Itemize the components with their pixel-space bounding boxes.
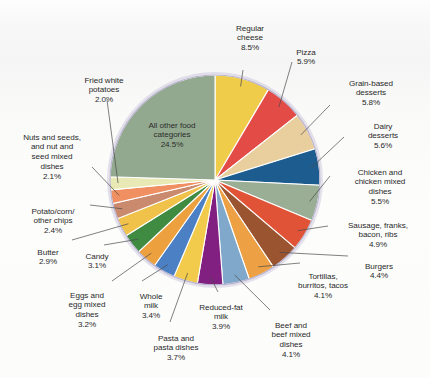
- callout-fried-white-potatoes: Fried white potatoes 2.0%: [68, 66, 140, 115]
- callout-label: Regular cheese: [236, 24, 264, 43]
- callout-label: Pizza: [296, 48, 316, 57]
- callout-pct: 2.1%: [13, 172, 91, 182]
- callout-label: Candy: [85, 252, 108, 261]
- callout-pct: 24.5%: [130, 140, 214, 150]
- callout-tortillas: Tortillas, burritos, tacos 4.1%: [288, 262, 358, 311]
- callout-label: Butter: [37, 248, 58, 257]
- callout-pct: 4.1%: [288, 291, 358, 301]
- callout-pct: 3.2%: [56, 320, 118, 330]
- callout-label: Sausage, franks, bacon, ribs: [348, 221, 408, 240]
- leader-line: [301, 105, 330, 135]
- callout-regular-cheese: Regular cheese 8.5%: [214, 14, 286, 63]
- callout-beef-dishes: Beef and beef mixed dishes 4.1%: [258, 311, 324, 369]
- callout-pct: 3.7%: [143, 353, 209, 363]
- callout-label: Burgers: [365, 262, 393, 271]
- callout-whole-milk: Whole milk 3.4%: [130, 282, 172, 331]
- callout-pct: 3.1%: [76, 261, 118, 271]
- callout-pizza: Pizza 5.9%: [282, 38, 330, 77]
- callout-pct: 5.8%: [330, 98, 412, 108]
- callout-burgers: Burgers 4.4%: [350, 252, 408, 291]
- callout-label: Tortillas, burritos, tacos: [298, 272, 348, 291]
- callout-label: Nuts and seeds, and nut and seed mixed d…: [23, 133, 81, 171]
- callout-pct: 2.9%: [26, 257, 70, 267]
- callout-pct: 2.4%: [20, 226, 86, 236]
- callout-nuts-and-seeds: Nuts and seeds, and nut and seed mixed d…: [13, 123, 91, 191]
- callout-pct: 4.4%: [350, 271, 408, 281]
- callout-label: Dairy desserts: [368, 122, 398, 141]
- pie-chart-figure: Regular cheese 8.5% Pizza 5.9% Grain-bas…: [0, 0, 430, 378]
- callout-label: Pasta and pasta dishes: [154, 334, 199, 353]
- callout-potato-corn-chips: Potato/corn/ other chips 2.4%: [20, 197, 86, 246]
- callout-pct: 3.4%: [130, 311, 172, 321]
- callout-label: Reduced-fat milk: [199, 303, 243, 322]
- callout-label: Beef and beef mixed dishes: [271, 321, 310, 349]
- callout-all-other-food: All other food categories 24.5%: [130, 111, 214, 160]
- callout-label: Potato/corn/ other chips: [31, 207, 74, 226]
- callout-grain-based-desserts: Grain-based desserts 5.8%: [330, 69, 412, 118]
- callout-pct: 8.5%: [214, 43, 286, 53]
- callout-eggs-dishes: Eggs and egg mixed dishes 3.2%: [56, 281, 118, 339]
- callout-label: Chicken and chicken mixed dishes: [355, 168, 406, 196]
- callout-pct: 5.9%: [282, 57, 330, 67]
- callout-pct: 5.5%: [334, 197, 426, 207]
- callout-pasta-dishes: Pasta and pasta dishes 3.7%: [143, 324, 209, 373]
- callout-pct: 4.9%: [330, 240, 426, 250]
- callout-label: Fried white potatoes: [84, 76, 123, 95]
- callout-label: Grain-based desserts: [349, 79, 393, 98]
- callout-label: Eggs and egg mixed dishes: [69, 291, 106, 319]
- callout-dairy-desserts: Dairy desserts 5.6%: [346, 112, 420, 161]
- callout-pct: 5.6%: [346, 141, 420, 151]
- callout-pct: 2.0%: [68, 95, 140, 105]
- callout-candy: Candy 3.1%: [76, 242, 118, 281]
- callout-chicken-dishes: Chicken and chicken mixed dishes 5.5%: [334, 158, 426, 216]
- callout-label: All other food categories: [149, 121, 196, 140]
- callout-pct: 4.1%: [258, 350, 324, 360]
- callout-label: Whole milk: [140, 292, 163, 311]
- pie-slices: [110, 75, 320, 285]
